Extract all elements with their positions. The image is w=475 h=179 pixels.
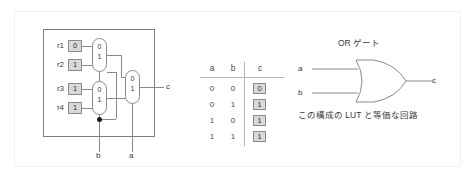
or-gate-input-b-label: b (298, 88, 302, 98)
truth-table-cell-c: 1 (253, 99, 266, 110)
register-label-r1: r1 (50, 41, 64, 51)
table-row: 0 0 0 (198, 82, 286, 98)
truth-table-header-rule (200, 77, 284, 78)
truth-table-cell-c: 0 (253, 83, 266, 94)
register-label-r4: r4 (50, 103, 64, 113)
select-label-b: b (96, 151, 100, 161)
wire-r2-to-mux-top (82, 65, 92, 66)
truth-table-header-row: a b c (198, 62, 286, 78)
truth-table-cell-b: 1 (225, 130, 241, 144)
mux-output-input-1-label: 1 (126, 85, 139, 93)
wire-select-b-branch-h (99, 119, 116, 120)
register-cell-r3: 1 (68, 83, 82, 95)
register-label-r2: r2 (50, 60, 64, 70)
mux-top-input-1-label: 1 (93, 53, 106, 61)
wire-r3-to-mux-bottom (82, 89, 92, 90)
truth-table-cell-b: 0 (225, 82, 241, 96)
truth-table-cell-c: 1 (253, 131, 266, 142)
or-gate-caption: この構成の LUT と等価な回路 (298, 108, 418, 120)
or-gate-input-a-label: a (298, 64, 302, 74)
junction-dot-b (97, 117, 102, 122)
truth-table-cell-b: 1 (225, 98, 241, 112)
wire-mux-top-out-h2 (121, 77, 125, 78)
wire-select-b-to-mux-top (99, 72, 100, 81)
truth-table-cell-a: 0 (204, 98, 220, 112)
table-row: 0 1 1 (198, 98, 286, 114)
truth-table: a b c 0 0 0 0 1 1 1 0 1 1 1 1 (198, 62, 286, 148)
mux-output-input-0-label: 0 (126, 75, 139, 83)
wire-r4-to-mux-bottom (82, 108, 92, 109)
wire-mux-top-out-h1 (107, 55, 121, 56)
register-cell-r4: 1 (68, 102, 82, 114)
or-gate-symbol (312, 54, 442, 114)
truth-table-cell-a: 1 (204, 114, 220, 128)
wire-mux-output-to-c (140, 87, 164, 88)
truth-table-cell-a: 1 (204, 130, 220, 144)
select-label-a: a (129, 151, 133, 161)
mux-output: 0 1 (125, 70, 140, 104)
mux-bottom-input-1-label: 1 (93, 96, 106, 104)
truth-table-header-b: b (225, 62, 241, 74)
wire-select-b-branch-to-top (107, 72, 116, 73)
truth-table-header-c: c (252, 62, 268, 74)
mux-bottom: 0 1 (92, 81, 107, 115)
wire-r1-to-mux-top (82, 46, 92, 47)
register-cell-r1: 0 (68, 40, 82, 52)
truth-table-header-a: a (204, 62, 220, 74)
wire-mux-top-out-v (121, 55, 122, 77)
truth-table-cell-c: 1 (253, 115, 266, 126)
lut-circuit-panel: r1 r2 r3 r4 0 1 1 1 0 1 0 1 0 1 (28, 20, 188, 160)
figure-canvas: r1 r2 r3 r4 0 1 1 1 0 1 0 1 0 1 (0, 0, 475, 179)
mux-bottom-input-0-label: 0 (93, 86, 106, 94)
register-label-r3: r3 (50, 84, 64, 94)
output-label-c: c (166, 82, 170, 92)
wire-select-a-vertical (132, 104, 133, 152)
or-gate-panel: OR ゲート a b c この構成の LUT と等価な回路 (296, 36, 456, 136)
or-gate-title: OR ゲート (338, 36, 380, 48)
mux-top-input-0-label: 0 (93, 43, 106, 51)
register-cell-r2: 1 (68, 59, 82, 71)
mux-top: 0 1 (92, 38, 107, 72)
table-row: 1 0 1 (198, 114, 286, 130)
wire-select-b-branch-v (116, 72, 117, 119)
truth-table-cell-b: 0 (225, 114, 241, 128)
table-row: 1 1 1 (198, 130, 286, 146)
truth-table-cell-a: 0 (204, 82, 220, 96)
